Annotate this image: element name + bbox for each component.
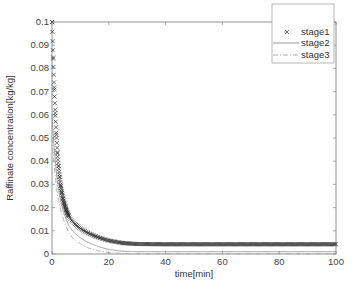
legend-label: stage1: [301, 26, 330, 37]
x-tick-label: 20: [104, 256, 115, 267]
y-tick-label: 0.02: [31, 202, 50, 213]
legend: stage1 stage2 stage3: [272, 4, 334, 63]
chart: 020406080100 00.010.020.030.040.050.060.…: [0, 0, 359, 292]
y-tick-label: 0.04: [31, 155, 50, 166]
x-tick-label: 60: [217, 256, 228, 267]
y-tick-label: 0.01: [31, 225, 50, 236]
x-axis-label: time[min]: [175, 268, 214, 279]
y-tick-label: 0: [44, 248, 49, 259]
x-tick-label: 0: [49, 256, 54, 267]
y-tick-label: 0.08: [31, 62, 50, 73]
y-tick-label: 0.06: [31, 109, 50, 120]
legend-label: stage3: [301, 49, 330, 60]
y-tick-label: 0.1: [36, 16, 49, 27]
y-tick-label: 0.03: [31, 178, 50, 189]
x-tick-label: 100: [328, 256, 344, 267]
x-tick-label: 80: [274, 256, 285, 267]
y-tick-label: 0.07: [31, 86, 50, 97]
x-tick-label: 40: [160, 256, 171, 267]
legend-label: stage2: [301, 37, 330, 48]
y-tick-label: 0.09: [31, 39, 50, 50]
y-axis-label: Raffinate concentration[kg/kg]: [4, 75, 15, 201]
y-tick-label: 0.05: [31, 132, 50, 143]
